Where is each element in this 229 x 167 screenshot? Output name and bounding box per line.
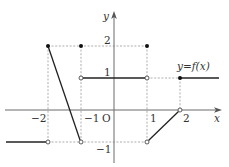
function-graph: y x O −2 −1 1 2 2 1 −1 y=f(x) (0, 0, 229, 167)
open-point (145, 76, 149, 80)
y-tick-label: 2 (104, 34, 111, 46)
x-tick-label: −2 (31, 112, 46, 124)
closed-point (145, 44, 149, 48)
x-tick-label: 2 (183, 112, 190, 124)
labels: y x O −2 −1 1 2 2 1 −1 y=f(x) (31, 10, 220, 155)
function-label: y=f(x) (176, 60, 210, 72)
y-tick-label: 1 (104, 66, 111, 78)
open-point (178, 108, 182, 112)
closed-point (79, 44, 83, 48)
x-tick-label: −1 (84, 112, 99, 124)
open-point (145, 140, 149, 144)
x-axis-label: x (214, 112, 220, 124)
closed-point (46, 44, 50, 48)
axes (5, 11, 222, 163)
open-point (79, 140, 83, 144)
open-point (46, 140, 50, 144)
origin-label: O (102, 112, 111, 124)
closed-point (178, 76, 182, 80)
y-axis-label: y (102, 10, 110, 22)
open-point (79, 76, 83, 80)
segment-steep (48, 46, 80, 140)
y-tick-label: −1 (96, 143, 111, 155)
x-tick-label: 1 (150, 112, 157, 124)
